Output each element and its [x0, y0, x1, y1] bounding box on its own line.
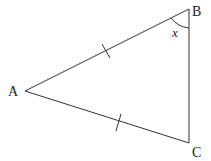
vertex-label-c: C	[192, 145, 201, 160]
side-ab	[25, 9, 189, 91]
triangle-diagram: A B C x	[0, 0, 211, 161]
tick-mark-ab	[102, 44, 110, 58]
angle-label-x: x	[171, 25, 178, 40]
side-ac	[25, 91, 189, 143]
tick-mark-ac	[116, 114, 121, 131]
vertex-label-b: B	[192, 4, 201, 19]
vertex-label-a: A	[8, 84, 19, 99]
